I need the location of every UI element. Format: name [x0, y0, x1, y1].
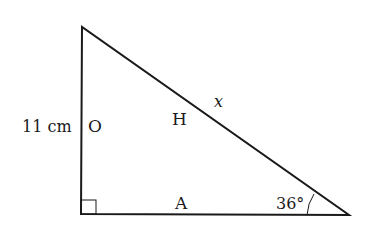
adjacent-label: A [174, 193, 188, 213]
angle-label: 36° [276, 194, 304, 213]
right-triangle [81, 27, 349, 215]
right-angle-marker [81, 200, 96, 214]
side-length-label: 11 cm [22, 117, 72, 136]
triangle-diagram: 11 cm O H x A 36° [0, 0, 379, 234]
opposite-label: O [88, 116, 102, 136]
hypotenuse-label: H [172, 109, 187, 129]
unknown-side-label: x [214, 92, 223, 111]
angle-arc [307, 194, 314, 215]
